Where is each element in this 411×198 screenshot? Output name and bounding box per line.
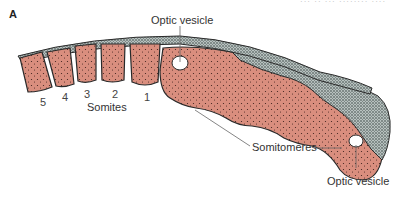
somite-number-2: 2 [112, 88, 118, 100]
label-optic-vesicle-bottom: Optic vesicle [327, 175, 389, 187]
somite-4 [47, 48, 74, 87]
somite-number-4: 4 [62, 91, 68, 103]
label-optic-vesicle-top: Optic vesicle [151, 14, 213, 26]
label-somites: Somites [87, 101, 127, 113]
label-somitomeres: Somitomeres [252, 141, 317, 153]
somite-1 [130, 44, 160, 85]
somite-number-3: 3 [84, 88, 90, 100]
somite-5 [20, 52, 52, 92]
panel-label: A [9, 8, 17, 20]
somite-number-5: 5 [40, 96, 46, 108]
somite-3 [75, 44, 96, 82]
caption-fragment: ··· ·· ··· ········ ···· [300, 0, 386, 6]
somite-2 [101, 44, 125, 82]
somite-number-1: 1 [144, 91, 150, 103]
